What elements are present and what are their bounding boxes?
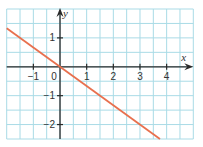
x-tick-label: 2	[111, 71, 117, 82]
line-graph: xy−1012341−1−2	[0, 0, 203, 147]
y-axis-label: y	[62, 7, 68, 19]
x-tick-label: 0	[51, 71, 57, 82]
x-tick-label: 3	[137, 71, 143, 82]
data-series	[7, 28, 160, 139]
tick-labels: xy−1012341−1−2	[28, 7, 187, 130]
x-tick-label: 4	[164, 71, 170, 82]
y-tick-label: −1	[44, 90, 56, 101]
x-tick-label: −1	[28, 71, 40, 82]
data-line	[7, 28, 160, 139]
x-axis-label: x	[180, 51, 186, 63]
y-tick-label: −2	[44, 119, 56, 130]
x-tick-label: 1	[84, 71, 90, 82]
y-tick-label: 1	[49, 32, 55, 43]
